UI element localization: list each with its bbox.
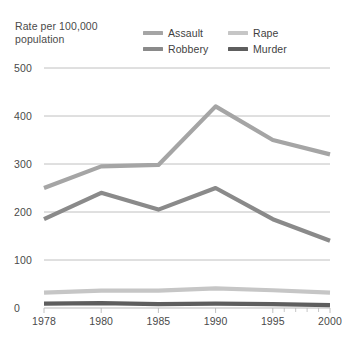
y-tick-label: 400 xyxy=(14,110,44,122)
y-tick-label: 100 xyxy=(14,254,44,266)
y-tick-label: 300 xyxy=(14,158,44,170)
x-tick-label: 1990 xyxy=(204,315,228,327)
y-tick-label: 0 xyxy=(14,302,44,314)
series-line-robbery xyxy=(44,188,330,241)
series-line-assault xyxy=(44,106,330,188)
chart-gridlines xyxy=(44,68,330,308)
x-tick-label: 1980 xyxy=(89,315,113,327)
series-line-murder xyxy=(44,303,330,305)
x-tick-label: 1995 xyxy=(261,315,285,327)
series-line-rape xyxy=(44,288,330,292)
y-tick-label: 500 xyxy=(14,62,44,74)
chart-x-tickmarks xyxy=(44,308,330,313)
y-tick-label: 200 xyxy=(14,206,44,218)
x-tick-label: 2000 xyxy=(318,315,342,327)
x-tick-label: 1978 xyxy=(32,315,56,327)
chart-series-lines xyxy=(44,106,330,305)
x-tick-label: 1985 xyxy=(147,315,171,327)
